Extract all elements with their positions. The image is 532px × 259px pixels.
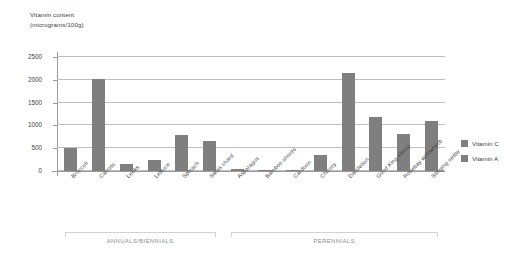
bar-swiss-chard — [203, 141, 216, 171]
group-bracket-tick — [65, 232, 66, 237]
legend-swatch-icon — [461, 155, 468, 162]
y-tick-label-0: 0 — [38, 167, 42, 174]
group-label-perennials: PERENNIALS — [231, 238, 437, 244]
legend-label: Vitamin A — [472, 155, 498, 162]
y-tick-label-2000: 2000 — [28, 76, 42, 83]
group-label-annuals-biennials: ANNUALS/BIENNIALS — [65, 238, 215, 244]
group-bracket-line — [231, 232, 437, 233]
legend-item-vitamin-c[interactable]: Vitamin C — [461, 139, 529, 147]
bar-dandelion — [342, 73, 355, 171]
y-axis-ticks: 05001000150020002500 — [0, 0, 52, 259]
y-tick-label-1000: 1000 — [28, 121, 42, 128]
chart-legend: Vitamin CVitamin A — [461, 139, 529, 169]
group-bracket-tick — [215, 232, 216, 237]
legend-label: Vitamin C — [472, 140, 499, 147]
bar-spinach — [175, 135, 188, 171]
legend-swatch-icon — [461, 140, 468, 147]
legend-item-vitamin-a[interactable]: Vitamin A — [461, 154, 529, 162]
bar-carrots — [92, 79, 105, 171]
bar-broccoli — [64, 148, 77, 171]
group-bracket-line — [65, 232, 215, 233]
y-tick-label-2500: 2500 — [28, 53, 42, 60]
y-tick-label-500: 500 — [31, 144, 42, 151]
group-bracket-tick — [437, 232, 438, 237]
y-tick-label-1500: 1500 — [28, 99, 42, 106]
bar-good-king-henry — [369, 117, 382, 171]
vitamin-content-bar-chart: Vitamin content(micrograms/100g) 0500100… — [0, 0, 532, 259]
bar-series-container — [57, 57, 445, 171]
group-bracket-tick — [231, 232, 232, 237]
